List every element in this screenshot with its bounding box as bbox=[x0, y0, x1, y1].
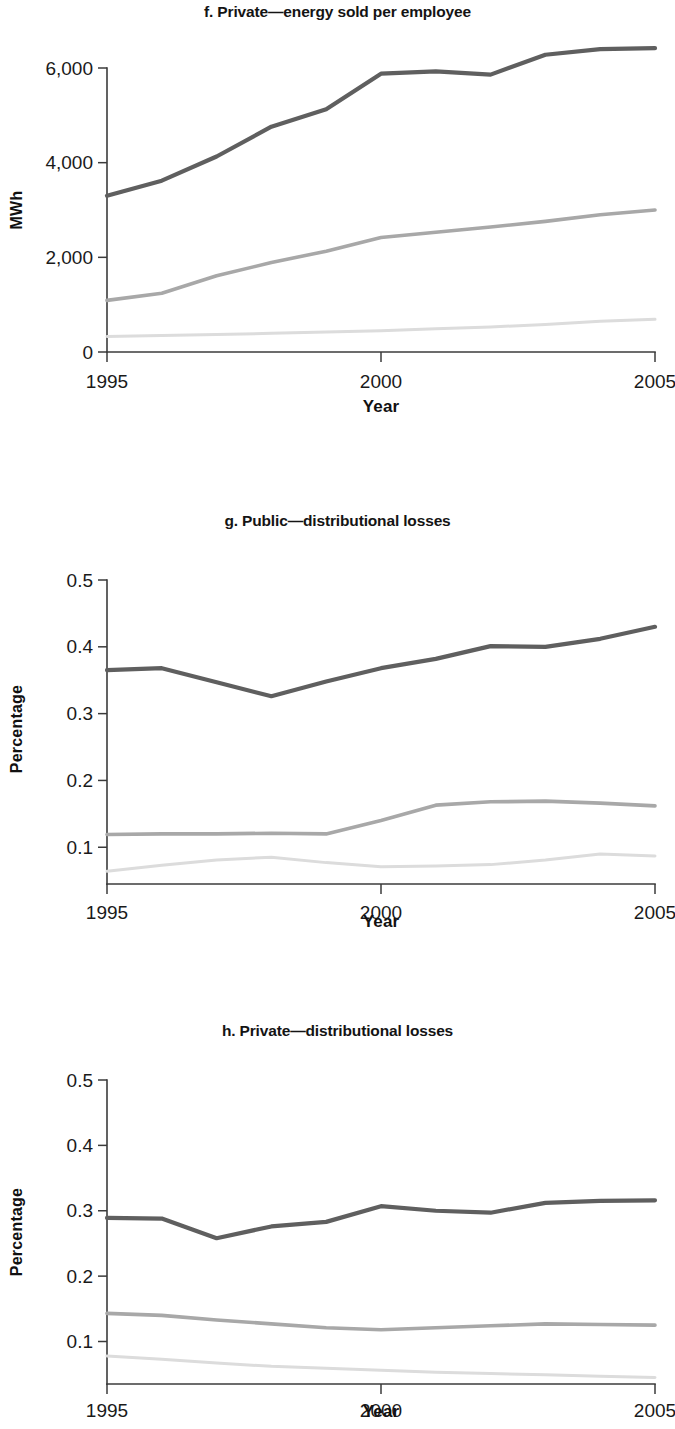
line-chart-g: 0.10.20.30.40.5199520002005YearPercentag… bbox=[0, 529, 675, 929]
y-tick-label: 2,000 bbox=[45, 247, 93, 268]
chart-title-g: g. Public—distributional losses bbox=[0, 500, 675, 529]
line-chart-h: 0.10.20.30.40.5199520002005YearPercentag… bbox=[0, 1039, 675, 1419]
x-tick-label: 2000 bbox=[360, 371, 402, 392]
series-line-middle bbox=[107, 210, 655, 300]
x-tick-label: 1995 bbox=[86, 371, 128, 392]
series-line-middle bbox=[107, 1313, 655, 1329]
y-axis-title: Percentage bbox=[8, 1188, 25, 1276]
chart-panel-f: f. Private—energy sold per employee 02,0… bbox=[0, 0, 675, 420]
y-tick-label: 0.2 bbox=[67, 1266, 93, 1287]
y-tick-label: 0.5 bbox=[67, 1070, 93, 1091]
y-tick-label: 0.2 bbox=[67, 770, 93, 791]
y-axis-title: Percentage bbox=[8, 685, 25, 773]
x-tick-label: 2005 bbox=[634, 371, 675, 392]
x-axis-title: Year bbox=[363, 1402, 400, 1419]
series-line-lower bbox=[107, 319, 655, 336]
y-tick-label: 0.3 bbox=[67, 703, 93, 724]
chart-title-h: h. Private—distributional losses bbox=[0, 1010, 675, 1039]
y-tick-label: 0.4 bbox=[67, 636, 94, 657]
y-tick-label: 0.5 bbox=[67, 570, 93, 591]
y-tick-label: 0.1 bbox=[67, 1331, 93, 1352]
plot-area-f: 02,0004,0006,000199520002005YearMWh bbox=[0, 20, 675, 412]
y-tick-label: 4,000 bbox=[45, 152, 93, 173]
x-axis-title: Year bbox=[363, 397, 400, 412]
y-tick-label: 0.4 bbox=[67, 1135, 94, 1156]
y-axis-title: MWh bbox=[8, 191, 25, 230]
series-line-upper bbox=[107, 627, 655, 696]
chart-title-f: f. Private—energy sold per employee bbox=[0, 0, 675, 20]
y-tick-label: 0.3 bbox=[67, 1200, 93, 1221]
x-tick-label: 1995 bbox=[86, 1400, 128, 1419]
x-tick-label: 2005 bbox=[634, 1400, 675, 1419]
y-tick-label: 6,000 bbox=[45, 58, 93, 79]
line-chart-f: 02,0004,0006,000199520002005YearMWh bbox=[0, 20, 675, 412]
x-axis-title: Year bbox=[363, 912, 400, 929]
x-tick-label: 1995 bbox=[86, 902, 128, 923]
series-line-upper bbox=[107, 48, 655, 196]
y-tick-label: 0.1 bbox=[67, 837, 93, 858]
y-tick-label: 0 bbox=[82, 342, 93, 363]
chart-panel-h: h. Private—distributional losses 0.10.20… bbox=[0, 1010, 675, 1429]
series-line-upper bbox=[107, 1200, 655, 1238]
series-line-middle bbox=[107, 801, 655, 834]
plot-area-h: 0.10.20.30.40.5199520002005YearPercentag… bbox=[0, 1039, 675, 1419]
plot-area-g: 0.10.20.30.40.5199520002005YearPercentag… bbox=[0, 529, 675, 929]
series-line-lower bbox=[107, 1356, 655, 1378]
chart-panel-g: g. Public—distributional losses 0.10.20.… bbox=[0, 500, 675, 940]
series-line-lower bbox=[107, 854, 655, 871]
x-tick-label: 2005 bbox=[634, 902, 675, 923]
